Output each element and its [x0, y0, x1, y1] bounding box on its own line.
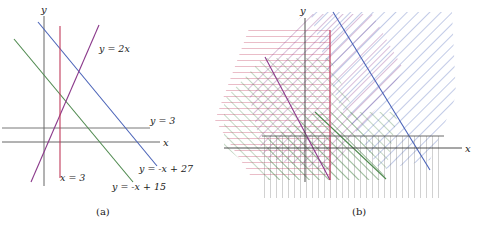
label-y-eq-minus-x-plus-15: y = -x + 15	[111, 181, 166, 192]
figure-container: y x y = 2x x = 3 y = 3 y = -x + 15 y = -…	[0, 0, 479, 229]
panel-b	[215, 12, 462, 198]
panel-a-y-axis-label: y	[40, 4, 47, 15]
panel-a: y x y = 2x x = 3 y = 3 y = -x + 15 y = -…	[2, 4, 194, 192]
label-y-eq-2x: y = 2x	[98, 43, 130, 54]
label-x-eq-3: x = 3	[60, 172, 85, 183]
panel-a-line-y-eq-2x	[31, 25, 99, 182]
figure-svg: y x y = 2x x = 3 y = 3 y = -x + 15 y = -…	[0, 0, 479, 229]
panel-b-y-axis-label: y	[299, 5, 306, 16]
panel-a-line-y-eq-minus-x-plus-27	[38, 22, 157, 166]
caption-a: (a)	[96, 206, 110, 217]
label-y-eq-minus-x-plus-27: y = -x + 27	[138, 163, 194, 174]
region-y-ge-3-hatch	[262, 136, 444, 198]
label-y-eq-3: y = 3	[149, 115, 175, 126]
caption-b: (b)	[352, 206, 366, 217]
panel-a-line-y-eq-minus-x-plus-15	[14, 39, 133, 182]
panel-b-x-axis-label: x	[465, 143, 471, 154]
panel-a-x-axis-label: x	[163, 137, 169, 148]
